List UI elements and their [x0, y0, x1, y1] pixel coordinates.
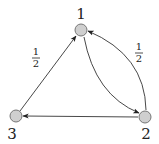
edge-3-to-1	[20, 36, 76, 111]
fraction-denominator: 2	[33, 58, 39, 69]
node-3-label: 3	[7, 125, 17, 143]
transition-graph: 1 2 3 1 2 1 2	[0, 0, 159, 144]
node-2: 2	[139, 111, 151, 143]
edge-1-to-2	[84, 37, 139, 113]
node-2-label: 2	[141, 125, 151, 143]
node-1-circle	[75, 24, 87, 36]
node-3: 3	[7, 110, 22, 143]
edge-2-to-3	[23, 116, 138, 117]
node-3-circle	[10, 110, 22, 122]
node-1: 1	[75, 5, 87, 36]
edge-3-to-1-weight: 1 2	[32, 46, 40, 69]
node-1-label: 1	[76, 5, 86, 23]
node-2-circle	[139, 111, 151, 123]
fraction-denominator: 2	[136, 53, 142, 64]
edge-2-to-1-weight: 1 2	[135, 41, 143, 64]
fraction-numerator: 1	[136, 41, 142, 52]
fraction-numerator: 1	[33, 46, 39, 57]
